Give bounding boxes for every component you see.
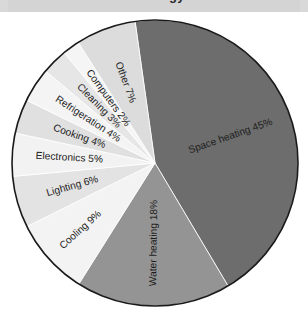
title-band: Energy — [0, 0, 308, 12]
chart-title: Energy — [8, 0, 308, 3]
title-band-inner: Energy — [8, 0, 300, 12]
chart-area: Space heating 45%Water heating 18%Coolin… — [0, 12, 308, 321]
pie-chart: Space heating 45%Water heating 18%Coolin… — [0, 12, 308, 321]
slice-label-water-heating: Water heating 18% — [147, 200, 159, 286]
pie-chart-page: Energy Space heating 45%Water heating 18… — [0, 0, 308, 321]
